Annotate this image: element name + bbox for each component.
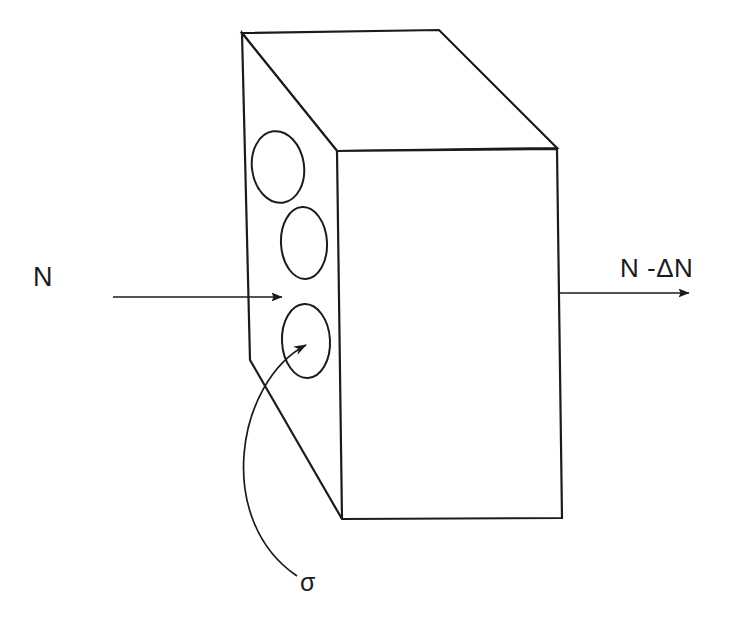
transmitted-beam-label: N -ΔN	[620, 255, 693, 281]
figure-canvas: N N -ΔN σ	[0, 0, 729, 636]
cross-section-label: σ	[300, 570, 316, 595]
slab-attenuation-diagram	[0, 0, 729, 636]
incident-beam-label: N	[33, 264, 53, 291]
